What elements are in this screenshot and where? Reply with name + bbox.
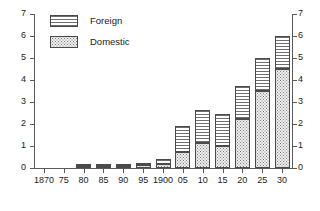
bar-segment-foreign-20 bbox=[235, 86, 250, 119]
x-tick-95 bbox=[143, 169, 144, 173]
bar-segment-foreign-05 bbox=[175, 126, 190, 151]
bar-segment-domestic-20 bbox=[235, 119, 250, 169]
x-tick-10 bbox=[203, 169, 204, 173]
bar-10 bbox=[195, 110, 210, 168]
y-axis-left-label: 2 bbox=[10, 119, 26, 128]
y-tick-right-6 bbox=[293, 36, 297, 37]
x-tick-20 bbox=[242, 169, 243, 173]
y-axis-left-label: 1 bbox=[10, 141, 26, 150]
x-tick-25 bbox=[262, 169, 263, 173]
y-axis-right-label: 2 bbox=[298, 119, 314, 128]
y-axis-left-label: 5 bbox=[10, 53, 26, 62]
bar-segment-domestic-1900 bbox=[156, 164, 171, 168]
bar-90 bbox=[116, 164, 131, 168]
y-tick-right-7 bbox=[293, 14, 297, 15]
legend-label-foreign: Foreign bbox=[90, 16, 122, 26]
bar-segment-foreign-95 bbox=[136, 163, 151, 166]
x-tick-85 bbox=[103, 169, 104, 173]
x-tick-1900 bbox=[163, 169, 164, 173]
y-axis-right-label: 6 bbox=[298, 31, 314, 40]
stacked-bar-chart: 76543210 76543210 1870758085909519000510… bbox=[0, 0, 320, 211]
y-tick-right-0 bbox=[293, 168, 297, 169]
y-axis-right-label: 3 bbox=[298, 97, 314, 106]
y-axis-right-label: 7 bbox=[298, 9, 314, 18]
x-tick-90 bbox=[123, 169, 124, 173]
bar-segment-foreign-30 bbox=[275, 36, 290, 69]
x-axis-label: 30 bbox=[262, 176, 302, 185]
bar-20 bbox=[235, 86, 250, 169]
bar-segment-foreign-80 bbox=[76, 164, 91, 166]
bar-segment-domestic-30 bbox=[275, 69, 290, 168]
x-tick-15 bbox=[223, 169, 224, 173]
x-tick-1870 bbox=[44, 169, 45, 173]
bar-segment-domestic-85 bbox=[96, 166, 111, 168]
y-axis-right-label: 0 bbox=[298, 163, 314, 172]
y-axis-left-label: 7 bbox=[10, 9, 26, 18]
bar-segment-foreign-10 bbox=[195, 110, 210, 143]
bar-25 bbox=[255, 58, 270, 168]
bar-segment-domestic-05 bbox=[175, 152, 190, 169]
bar-80 bbox=[76, 164, 91, 168]
x-tick-75 bbox=[64, 169, 65, 173]
bar-segment-domestic-80 bbox=[76, 166, 91, 168]
bar-segment-foreign-90 bbox=[116, 164, 131, 166]
bar-segment-foreign-85 bbox=[96, 164, 111, 166]
y-tick-right-2 bbox=[293, 124, 297, 125]
y-axis-right-label: 1 bbox=[298, 141, 314, 150]
bar-95 bbox=[136, 163, 151, 169]
y-tick-right-1 bbox=[293, 146, 297, 147]
bar-segment-foreign-1900 bbox=[156, 159, 171, 164]
x-tick-30 bbox=[282, 169, 283, 173]
bar-segment-domestic-25 bbox=[255, 91, 270, 168]
bar-segment-domestic-10 bbox=[195, 143, 210, 168]
bar-1900 bbox=[156, 159, 171, 168]
x-tick-80 bbox=[84, 169, 85, 173]
bar-30 bbox=[275, 36, 290, 168]
y-axis-left-label: 0 bbox=[10, 163, 26, 172]
bar-15 bbox=[215, 114, 230, 168]
y-tick-left-0 bbox=[30, 168, 34, 169]
bar-segment-foreign-15 bbox=[215, 114, 230, 146]
bar-05 bbox=[175, 126, 190, 168]
y-tick-right-5 bbox=[293, 58, 297, 59]
bar-segment-foreign-25 bbox=[255, 58, 270, 91]
domestic-swatch-icon bbox=[50, 36, 78, 48]
bar-segment-domestic-90 bbox=[116, 166, 131, 168]
y-axis-left-label: 3 bbox=[10, 97, 26, 106]
foreign-swatch-icon bbox=[50, 15, 78, 27]
y-tick-right-3 bbox=[293, 102, 297, 103]
legend-label-domestic: Domestic bbox=[90, 37, 130, 47]
bar-segment-domestic-95 bbox=[136, 165, 151, 168]
x-tick-05 bbox=[183, 169, 184, 173]
y-axis-right-label: 5 bbox=[298, 53, 314, 62]
y-axis-left-label: 4 bbox=[10, 75, 26, 84]
y-axis-right-label: 4 bbox=[298, 75, 314, 84]
bar-85 bbox=[96, 164, 111, 168]
y-tick-right-4 bbox=[293, 80, 297, 81]
bar-segment-domestic-15 bbox=[215, 146, 230, 168]
y-axis-left-label: 6 bbox=[10, 31, 26, 40]
